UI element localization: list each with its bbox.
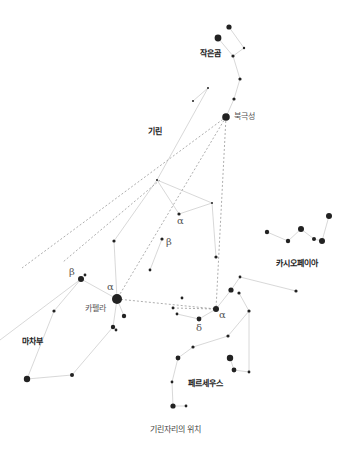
greek-alpha-perseus: α: [219, 310, 226, 320]
star: [294, 289, 297, 292]
star: [238, 77, 241, 80]
constellation-line: [114, 241, 117, 299]
star-chart: [0, 0, 351, 461]
star: [222, 113, 230, 121]
star: [228, 287, 233, 292]
constellation-line: [157, 180, 179, 214]
star: [286, 239, 290, 243]
star: [172, 307, 175, 310]
star: [115, 329, 118, 332]
star: [232, 368, 237, 373]
star: [111, 325, 115, 329]
constellation-line: [54, 279, 81, 311]
star: [226, 24, 231, 29]
constellation-line: [239, 293, 249, 311]
constellation-line: [228, 311, 249, 336]
star: [24, 376, 30, 382]
star: [160, 237, 163, 240]
star: [265, 230, 269, 234]
star: [237, 291, 240, 294]
pointer-line: [117, 117, 226, 299]
star: [170, 403, 175, 408]
star: [181, 297, 184, 300]
label-ursa-minor: 작은곰: [200, 50, 221, 58]
greek-beta-auriga: β: [69, 267, 75, 277]
constellation-line: [179, 203, 212, 214]
greek-alpha-auriga: α: [107, 282, 114, 292]
pointer-line: [216, 117, 226, 309]
constellation-line: [322, 216, 329, 241]
constellation-line: [233, 48, 244, 56]
constellation-line: [177, 314, 199, 319]
star: [70, 373, 74, 377]
star: [232, 97, 235, 100]
constellation-line: [212, 203, 216, 257]
greek-delta-perseus: δ: [196, 323, 202, 333]
star: [214, 255, 217, 258]
constellation-line: [234, 79, 240, 99]
star: [227, 355, 233, 361]
pointer-line: [22, 117, 226, 268]
constellation-line: [157, 88, 208, 180]
label-camelopardalis: 기린: [148, 128, 162, 136]
greek-alpha-camelopardalis: α: [177, 216, 184, 226]
constellation-line: [216, 290, 231, 309]
constellation-line: [193, 336, 228, 347]
star: [239, 276, 242, 279]
constellation-line: [0, 279, 81, 340]
star: [211, 202, 213, 204]
constellation-line: [157, 180, 212, 203]
label-cassiopeia: 카시오페이아: [276, 260, 318, 268]
star: [78, 276, 84, 282]
star: [197, 317, 202, 322]
star: [191, 345, 194, 348]
label-auriga: 마차부: [22, 338, 43, 346]
star: [112, 294, 122, 304]
star: [52, 309, 55, 312]
star: [298, 226, 304, 232]
star: [226, 334, 229, 337]
star: [176, 356, 181, 361]
constellation-line: [240, 277, 296, 291]
star: [247, 309, 250, 312]
figure-caption: 기린자리의 위치: [0, 423, 351, 434]
star: [243, 47, 245, 49]
constellation-line: [114, 180, 157, 241]
label-capella: 카펠라: [85, 305, 106, 313]
star: [215, 35, 222, 42]
star: [326, 213, 332, 219]
greek-beta-camelopardalis: β: [166, 237, 172, 247]
label-perseus: 페르세우스: [188, 380, 223, 388]
pointer-line: [63, 180, 160, 262]
star: [231, 54, 234, 57]
pointer-line: [117, 299, 216, 309]
constellation-line: [178, 347, 193, 358]
star: [185, 405, 188, 408]
star: [207, 87, 209, 89]
constellation-line: [72, 327, 113, 375]
label-polaris: 북극성: [234, 113, 255, 121]
star: [176, 313, 179, 316]
star: [84, 274, 87, 277]
constellation-line: [193, 88, 208, 101]
star: [112, 239, 115, 242]
constellation-line: [27, 375, 72, 379]
star: [192, 100, 194, 102]
constellation-line: [172, 382, 173, 406]
constellation-line: [233, 56, 240, 79]
constellation-lines: [0, 27, 329, 406]
pointer-dashed-lines: [22, 117, 226, 309]
star: [122, 314, 126, 318]
star: [171, 381, 174, 384]
star: [156, 179, 158, 181]
star: [248, 371, 251, 374]
star: [319, 238, 325, 244]
constellation-line: [267, 232, 288, 241]
star: [312, 237, 316, 241]
constellation-line: [172, 358, 178, 382]
constellation-line: [229, 27, 244, 48]
constellation-line: [150, 239, 162, 270]
star: [149, 269, 152, 272]
